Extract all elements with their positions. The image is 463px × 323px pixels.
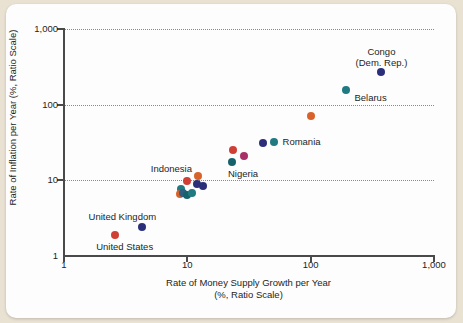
- x-axis-line: [63, 255, 434, 257]
- figure-root: 1,000 100 10 1 1 10 100 1,000 Rate of In…: [0, 0, 463, 323]
- data-point-romania: [270, 138, 278, 146]
- gridline-10: [64, 180, 434, 181]
- point-label-belarus: Belarus: [354, 92, 386, 103]
- data-point-11: [229, 146, 237, 154]
- gridline-100: [64, 105, 434, 106]
- x-axis-title-line1: Rate of Money Supply Growth per Year: [63, 277, 434, 289]
- data-point-congo-dem-rep: [377, 68, 385, 76]
- y-axis-line: [63, 28, 65, 257]
- point-label-united-states: United States: [96, 241, 153, 252]
- point-label-united-kingdom: United Kingdom: [89, 211, 157, 222]
- y-tick-mark-1000: [57, 28, 65, 30]
- y-tick-label-100: 100: [18, 99, 58, 110]
- point-label-romania: Romania: [283, 136, 321, 147]
- x-tick-label-100: 100: [303, 259, 319, 270]
- point-label-indonesia: Indonesia: [151, 163, 192, 174]
- data-point-belarus: [342, 86, 350, 94]
- x-tick-label-1000: 1,000: [422, 259, 446, 270]
- data-point-14: [259, 139, 267, 147]
- point-label-nigeria: Nigeria: [228, 168, 258, 179]
- gridline-1000: [64, 29, 434, 30]
- scatter-chart: 1,000 100 10 1 1 10 100 1,000 Rate of In…: [0, 0, 463, 323]
- x-axis-title-line2: (%, Ratio Scale): [63, 289, 434, 301]
- y-tick-label-10: 10: [18, 174, 58, 185]
- y-tick-mark-10: [57, 179, 65, 181]
- data-point-united-kingdom: [138, 223, 146, 231]
- point-label-congo: Congo (Dem. Rep.): [356, 46, 408, 68]
- point-label-congo-line2: (Dem. Rep.): [356, 57, 408, 68]
- y-axis-title: Rate of Inflation per Year (%, Ratio Sca…: [7, 18, 18, 218]
- data-point-united-states: [111, 231, 119, 239]
- data-point-7: [188, 189, 196, 197]
- point-label-congo-line1: Congo: [356, 46, 408, 57]
- x-axis-title: Rate of Money Supply Growth per Year (%,…: [63, 277, 434, 301]
- data-point-nigeria: [228, 158, 236, 166]
- data-point-16: [307, 112, 315, 120]
- y-tick-label-1: 1: [18, 250, 58, 261]
- y-tick-mark-100: [57, 104, 65, 106]
- data-point-10: [199, 182, 207, 190]
- x-tick-label-10: 10: [182, 259, 193, 270]
- data-point-8: [194, 172, 202, 180]
- x-tick-label-1: 1: [61, 259, 66, 270]
- y-tick-labels: 1,000 100 10 1: [12, 0, 58, 323]
- data-point-indonesia: [183, 177, 191, 185]
- y-tick-label-1000: 1,000: [18, 23, 58, 34]
- data-point-13: [240, 152, 248, 160]
